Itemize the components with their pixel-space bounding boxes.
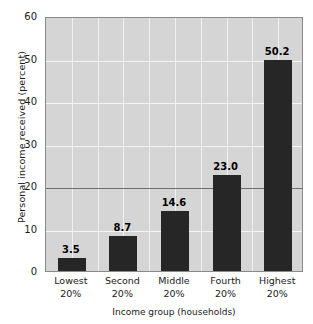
bar-value-label: 8.7: [97, 222, 147, 233]
bar: [213, 175, 241, 272]
bar: [109, 236, 137, 272]
category-label-line2: 20%: [43, 288, 99, 301]
x-axis-title: Income group (households): [45, 307, 303, 318]
x-axis-category-labels: Lowest20%Second20%Middle20%Fourth20%High…: [45, 275, 303, 305]
bar: [264, 60, 292, 272]
category-label-line1: Highest: [249, 275, 305, 288]
bar: [58, 258, 86, 272]
category-label-line1: Fourth: [198, 275, 254, 288]
bar-value-label: 14.6: [149, 197, 199, 208]
category-label-line1: Middle: [146, 275, 202, 288]
category-label-line1: Lowest: [43, 275, 99, 288]
bar-value-label: 23.0: [201, 161, 251, 172]
x-axis-category-label: Middle20%: [146, 275, 202, 300]
x-axis-category-label: Lowest20%: [43, 275, 99, 300]
category-label-line2: 20%: [146, 288, 202, 301]
x-axis-category-label: Highest20%: [249, 275, 305, 300]
bar-value-label: 50.2: [252, 46, 302, 57]
x-axis-category-label: Second20%: [94, 275, 150, 300]
x-axis-category-label: Fourth20%: [198, 275, 254, 300]
bar: [161, 211, 189, 272]
category-label-line1: Second: [94, 275, 150, 288]
bar-chart: Personal income received (percent) 60504…: [0, 0, 313, 324]
category-label-line2: 20%: [94, 288, 150, 301]
category-label-line2: 20%: [198, 288, 254, 301]
bar-value-label: 3.5: [46, 244, 96, 255]
category-label-line2: 20%: [249, 288, 305, 301]
